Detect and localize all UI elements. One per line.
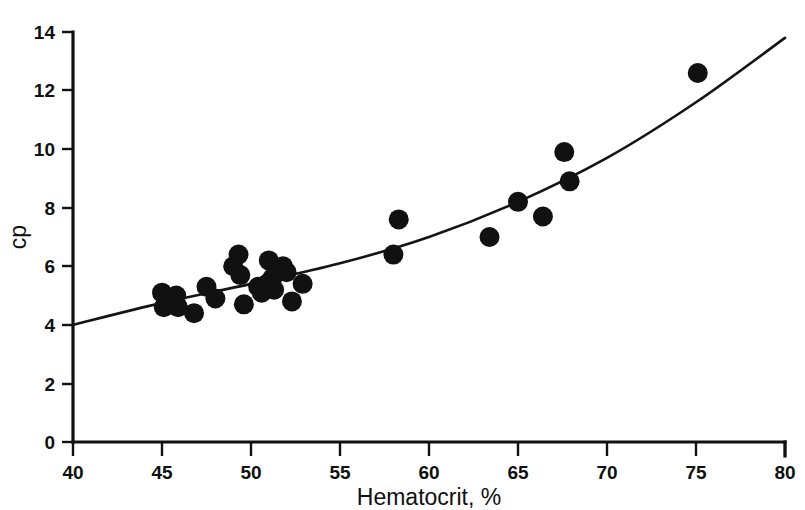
data-point (533, 207, 553, 227)
y-tick-label-12: 12 (34, 80, 55, 101)
data-point (229, 245, 249, 265)
data-point (554, 142, 574, 162)
x-tick-label-65: 65 (507, 462, 529, 483)
x-tick-label-70: 70 (596, 462, 617, 483)
x-tick-labels: 40 45 50 55 60 65 70 75 80 (62, 462, 795, 483)
data-point (508, 192, 528, 212)
data-point (282, 291, 302, 311)
data-point (277, 262, 297, 282)
data-point (264, 280, 284, 300)
x-tick-label-60: 60 (418, 462, 439, 483)
y-axis-title: cp (5, 225, 31, 249)
data-point (688, 63, 708, 83)
x-tick-label-55: 55 (329, 462, 351, 483)
data-point (383, 245, 403, 265)
y-tick-label-2: 2 (44, 374, 55, 395)
data-point (184, 303, 204, 323)
x-tick-marks (73, 442, 785, 456)
y-tick-labels: 14 12 10 8 6 4 2 0 (34, 22, 56, 453)
y-tick-label-0: 0 (44, 432, 55, 453)
y-tick-label-14: 14 (34, 22, 56, 43)
axes-group (73, 32, 785, 456)
data-point (293, 274, 313, 294)
data-point (389, 209, 409, 229)
x-tick-label-40: 40 (62, 462, 83, 483)
x-tick-label-45: 45 (151, 462, 173, 483)
data-point (234, 294, 254, 314)
data-point (560, 171, 580, 191)
data-point (480, 227, 500, 247)
x-axis-title: Hematocrit, % (357, 484, 501, 510)
plot-canvas: 14 12 10 8 6 4 2 0 40 45 50 55 60 65 (0, 0, 805, 510)
y-tick-label-10: 10 (34, 139, 55, 160)
data-points-group (152, 63, 708, 323)
x-tick-label-75: 75 (685, 462, 707, 483)
data-point (205, 289, 225, 309)
y-tick-label-6: 6 (44, 256, 55, 277)
y-tick-label-4: 4 (44, 315, 55, 336)
trend-line (73, 38, 785, 325)
scatter-chart-figure: 14 12 10 8 6 4 2 0 40 45 50 55 60 65 (0, 0, 805, 510)
data-point (230, 265, 250, 285)
y-tick-label-8: 8 (44, 198, 55, 219)
y-tick-marks (62, 32, 73, 442)
x-tick-label-50: 50 (240, 462, 261, 483)
x-tick-label-80: 80 (774, 462, 795, 483)
